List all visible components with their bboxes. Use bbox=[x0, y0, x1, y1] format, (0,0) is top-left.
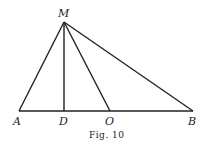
segment-mb bbox=[64, 22, 193, 111]
segment-ma bbox=[19, 22, 64, 111]
label-o: O bbox=[105, 115, 114, 128]
label-a: A bbox=[12, 115, 21, 128]
segment-mo bbox=[64, 22, 110, 111]
figure-caption: Fig. 10 bbox=[89, 130, 125, 140]
label-m: M bbox=[57, 7, 70, 20]
label-b: B bbox=[187, 115, 196, 128]
label-d: D bbox=[58, 115, 68, 128]
geometry-figure: M A D O B Fig. 10 bbox=[0, 0, 207, 147]
